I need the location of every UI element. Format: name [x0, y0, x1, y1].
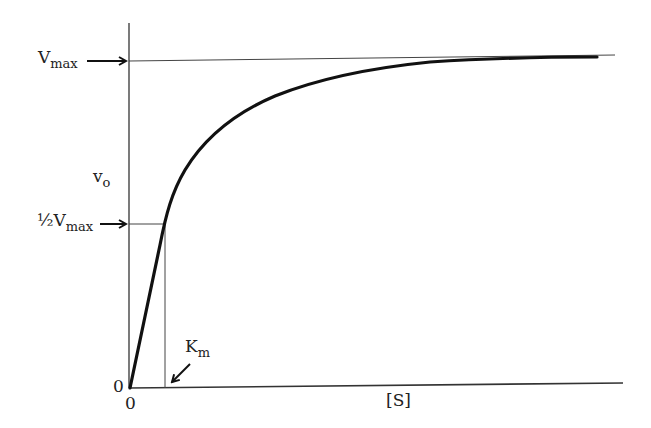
x-axis: [129, 383, 623, 388]
km-label-main: K: [185, 336, 198, 356]
vmax-label-sub: max: [50, 56, 77, 71]
vmax-label: Vmax: [38, 49, 78, 66]
x-axis-label: [S]: [386, 392, 411, 409]
plot-area: [0, 0, 651, 428]
km-label-sub: m: [198, 345, 210, 360]
v0-label-sub: o: [103, 175, 111, 190]
km-arrow-icon: [172, 364, 190, 382]
v0-label-main: v: [93, 166, 103, 186]
vmax-label-main: V: [38, 47, 50, 67]
half-vmax-label: ½Vmax: [37, 212, 93, 229]
half-vmax-label-main: ½V: [37, 210, 66, 230]
y-zero-label: 0: [113, 378, 124, 395]
half-vmax-label-sub: max: [66, 219, 93, 234]
x-zero-label: 0: [125, 395, 136, 412]
km-label: Km: [185, 338, 210, 355]
v0-label: vo: [93, 168, 110, 185]
